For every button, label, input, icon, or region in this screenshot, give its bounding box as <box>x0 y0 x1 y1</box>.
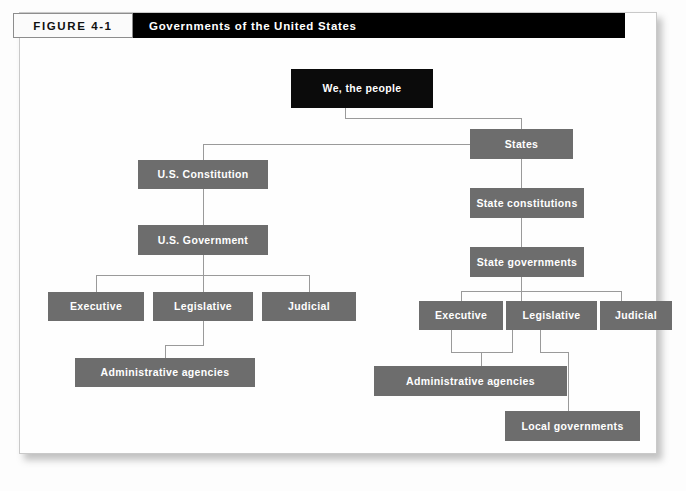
connector-state-distribution-bar <box>461 291 621 292</box>
connector-federal-legislative-down <box>203 321 204 346</box>
node-state-administrative-agencies[interactable]: Administrative agencies <box>374 366 567 396</box>
connector-state-constitutions-to-state-governments <box>521 218 522 247</box>
node-states[interactable]: States <box>470 129 573 159</box>
connector-root-to-states-horizontal <box>345 118 521 119</box>
node-state-legislative[interactable]: Legislative <box>506 301 597 330</box>
figure-root: FIGURE 4-1 Governments of the United Sta… <box>0 0 686 491</box>
connector-local-governments-horizontal <box>540 352 569 353</box>
connector-constitution-stem <box>203 144 204 160</box>
connector-state-executive-stem <box>461 291 462 301</box>
connector-state-legislative-stem <box>521 291 522 301</box>
node-we-the-people[interactable]: We, the people <box>291 69 433 108</box>
connector-federal-admin-horizontal <box>165 345 204 346</box>
node-state-constitutions[interactable]: State constitutions <box>470 188 584 218</box>
connector-local-governments-down-a <box>540 330 541 352</box>
connector-state-governments-stem <box>521 277 522 292</box>
connector-states-stem <box>521 118 522 129</box>
node-us-constitution[interactable]: U.S. Constitution <box>138 160 268 189</box>
connector-federal-executive-stem <box>96 275 97 292</box>
connector-states-to-state-constitutions <box>521 159 522 188</box>
connector-state-admin-stem <box>481 352 482 366</box>
connector-federal-admin-stem <box>165 345 166 358</box>
node-state-judicial[interactable]: Judicial <box>600 301 672 330</box>
node-federal-judicial[interactable]: Judicial <box>262 292 356 321</box>
node-federal-administrative-agencies[interactable]: Administrative agencies <box>75 358 255 387</box>
node-federal-legislative[interactable]: Legislative <box>153 292 253 321</box>
figure-title: Governments of the United States <box>133 13 625 38</box>
connector-constitution-to-government <box>203 189 204 225</box>
node-state-executive[interactable]: Executive <box>419 301 503 330</box>
figure-header: FIGURE 4-1 Governments of the United Sta… <box>13 13 625 38</box>
node-state-governments[interactable]: State governments <box>470 247 584 277</box>
connector-government-stem <box>203 255 204 276</box>
figure-number-label: FIGURE 4-1 <box>13 13 133 38</box>
node-us-government[interactable]: U.S. Government <box>138 225 268 255</box>
connector-state-legislative-down <box>512 330 513 352</box>
connector-local-governments-stem <box>568 352 569 411</box>
connector-states-to-constitution-horizontal <box>203 144 471 145</box>
connector-federal-legislative-stem <box>203 275 204 292</box>
connector-state-judicial-stem <box>621 291 622 301</box>
node-local-governments[interactable]: Local governments <box>505 411 640 441</box>
connector-state-executive-down <box>451 330 452 352</box>
connector-state-admin-bar <box>451 352 513 353</box>
connector-federal-judicial-stem <box>309 275 310 292</box>
node-federal-executive[interactable]: Executive <box>48 292 144 321</box>
